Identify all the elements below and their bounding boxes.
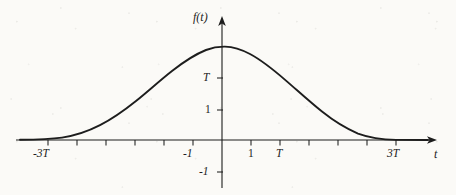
x-tick-label-3T: 3T — [387, 148, 399, 160]
y-tick-label-1: 1 — [205, 104, 211, 116]
x-tick-label-minus-3T: -3T — [33, 148, 49, 160]
x-tick-label-T: T — [276, 148, 282, 160]
x-axis-title: t — [434, 148, 437, 160]
y-tick-label-T: T — [203, 72, 209, 84]
x-tick-label-1: 1 — [248, 148, 254, 160]
plot-canvas — [0, 0, 456, 195]
bell-curve-path — [20, 47, 428, 140]
y-axis-title: f(t) — [193, 11, 208, 23]
y-tick-label-minus-1: -1 — [199, 166, 209, 178]
bell-curve-figure: f(t) t -3T -1 1 T 3T T 1 -1 — [0, 0, 456, 195]
x-tick-label-minus-1: -1 — [183, 148, 193, 160]
